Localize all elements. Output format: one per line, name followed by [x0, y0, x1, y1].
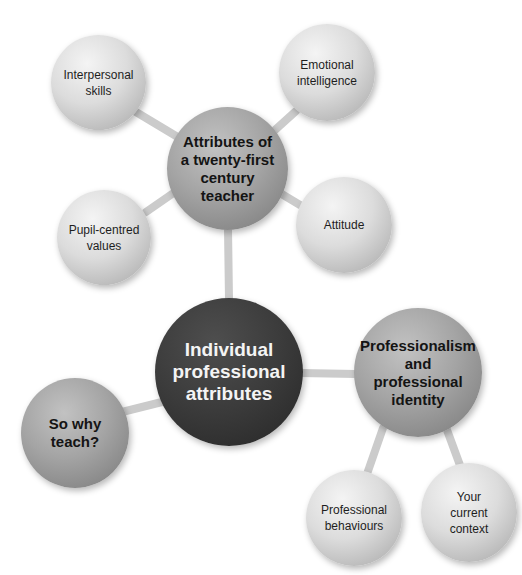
- center-node-label: Individual professional attributes: [169, 339, 290, 405]
- node-professional-behaviours: Professional behaviours: [306, 470, 402, 566]
- connector-professionalism-behaviours: [367, 428, 383, 474]
- connector-individual-so-why-teach: [122, 402, 162, 412]
- connector-professionalism-context: [447, 430, 461, 468]
- connector-attributes-pupil-centred: [146, 194, 172, 212]
- node-label: Professionalism and professional identit…: [354, 337, 482, 409]
- node-label: Interpersonal skills: [59, 67, 137, 99]
- node-attributes-twenty-first-century-teacher: Attributes of a twenty-first century tea…: [167, 107, 288, 230]
- node-individual-professional-attributes: Individual professional attributes: [155, 298, 303, 446]
- node-label: So why teach?: [45, 415, 106, 451]
- node-emotional-intelligence: Emotional intelligence: [279, 24, 375, 121]
- connector-individual-attributes: [228, 228, 229, 300]
- node-attitude: Attitude: [296, 177, 392, 273]
- node-your-current-context: Your current context: [421, 463, 517, 562]
- node-label: Your current context: [446, 489, 493, 537]
- node-interpersonal-skills: Interpersonal skills: [51, 35, 146, 130]
- node-label: Pupil-centred values: [65, 222, 144, 254]
- node-label: Emotional intelligence: [293, 57, 361, 89]
- node-label: Professional behaviours: [317, 502, 391, 534]
- connector-attributes-interpersonal: [136, 112, 176, 136]
- node-label: Attributes of a twenty-first century tea…: [177, 133, 278, 205]
- node-label: Attitude: [320, 217, 369, 233]
- node-professionalism-identity: Professionalism and professional identit…: [354, 308, 482, 437]
- node-so-why-teach: So why teach?: [21, 378, 129, 488]
- connector-attributes-emotional: [275, 111, 296, 130]
- node-pupil-centred-values: Pupil-centred values: [57, 190, 151, 285]
- connector-attributes-attitude: [280, 193, 300, 205]
- mind-map-diagram: Interpersonal skills Emotional intellige…: [0, 0, 522, 575]
- connector-individual-professionalism: [300, 373, 356, 374]
